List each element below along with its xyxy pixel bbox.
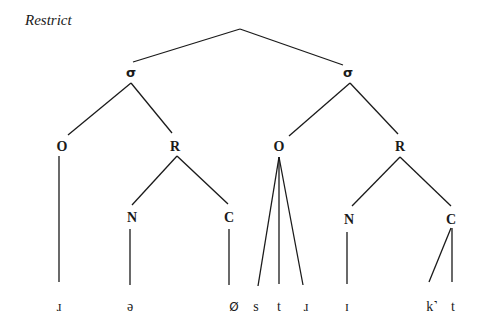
node-syllable-1: σ (126, 65, 136, 80)
edge-root-syllable-2 (240, 29, 343, 65)
segment: ə (127, 299, 133, 314)
segment: Ø (229, 300, 238, 314)
edge-syllable-1-rhyme (131, 83, 172, 133)
segment: t (451, 299, 455, 314)
edge-rhyme-2-coda (400, 157, 451, 206)
node-onset-2: O (274, 139, 285, 154)
edge-rhyme-1-coda (177, 156, 228, 204)
node-rhyme-2: R (395, 139, 406, 154)
syllable-tree-diagram: Restrict σ σ O R O R N C N C ɹ ə Ø s t ɹ… (0, 0, 483, 325)
edge-root-syllable-1 (133, 29, 240, 62)
word-title: Restrict (24, 12, 72, 28)
segment: ɹ (304, 299, 309, 314)
edge-syllable-2-onset (289, 83, 350, 136)
node-nucleus-1: N (127, 210, 137, 225)
edge-rhyme-1-nucleus (132, 156, 177, 205)
node-rhyme-1: R (170, 139, 181, 154)
node-syllable-2: σ (343, 65, 353, 80)
segment: ɪ (345, 299, 349, 314)
edge-coda-2-seg-k (429, 228, 451, 282)
node-coda-1: C (224, 210, 234, 225)
edge-syllable-2-rhyme (350, 83, 398, 134)
node-onset-1: O (57, 139, 68, 154)
edge-rhyme-2-nucleus (352, 157, 400, 206)
segment: k˺ (426, 299, 438, 314)
edge-onset-2-seg-r (279, 157, 303, 285)
edge-syllable-1-onset (68, 83, 131, 135)
segment: ɹ (57, 299, 62, 314)
edge-onset-2-seg-s (258, 157, 279, 286)
segment: t (277, 299, 281, 314)
segment: s (253, 299, 258, 314)
node-coda-2: C (446, 212, 456, 227)
node-nucleus-2: N (344, 212, 354, 227)
